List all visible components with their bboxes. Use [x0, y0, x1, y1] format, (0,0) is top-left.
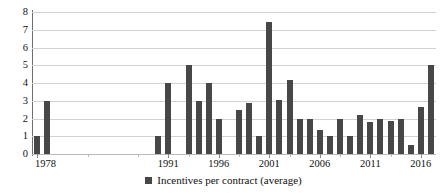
x-tick-label-2006: 2006 [309, 158, 330, 169]
x-tick-mark-minor [239, 154, 240, 157]
bar [388, 121, 394, 154]
bar [236, 110, 242, 154]
bar [287, 80, 293, 154]
bar [186, 65, 192, 154]
x-tick-label-2011: 2011 [360, 158, 381, 169]
bar [408, 145, 414, 154]
x-tick-mark-minor [189, 154, 190, 157]
bar [165, 83, 171, 154]
bar [155, 136, 161, 154]
chart-legend: Incentives per contract (average) [0, 174, 447, 186]
x-tick-label-1991: 1991 [158, 158, 179, 169]
bar [266, 22, 272, 154]
y-tick-label-5: 5 [2, 60, 28, 71]
y-tick-label-7: 7 [2, 25, 28, 36]
y-tick-label-4: 4 [2, 78, 28, 89]
bar [377, 119, 383, 155]
bar [367, 122, 373, 154]
y-axis-labels: 012345678 [0, 0, 28, 194]
x-tick-label-2001: 2001 [259, 158, 280, 169]
x-axis-ticks: 1978199119962001200620112016 [32, 154, 436, 174]
x-tick-mark-minor [290, 154, 291, 157]
bar [246, 103, 252, 154]
x-tick-label-2016: 2016 [410, 158, 431, 169]
bar [428, 65, 434, 154]
bar-series [32, 12, 436, 154]
bar [34, 136, 40, 154]
bar-chart: 012345678 1978199119962001200620112016 I… [0, 0, 447, 194]
bar [317, 130, 323, 154]
y-tick-label-6: 6 [2, 43, 28, 54]
y-tick-label-0: 0 [2, 149, 28, 160]
bar [327, 136, 333, 154]
bar [256, 136, 262, 154]
legend-square-marker-icon [145, 177, 152, 184]
bar [216, 119, 222, 155]
x-tick-mark-minor [138, 154, 139, 157]
bar [276, 100, 282, 154]
bar [337, 119, 343, 155]
y-tick-label-2: 2 [2, 114, 28, 125]
y-tick-label-1: 1 [2, 131, 28, 142]
y-tick-label-3: 3 [2, 96, 28, 107]
bar [297, 119, 303, 155]
bar [347, 136, 353, 154]
x-tick-mark-minor [340, 154, 341, 157]
x-tick-mark-minor [391, 154, 392, 157]
legend-label: Incentives per contract (average) [157, 174, 301, 186]
bar [418, 107, 424, 154]
bar [206, 83, 212, 154]
plot-area [32, 12, 436, 154]
x-tick-mark-minor [88, 154, 89, 157]
y-tick-label-8: 8 [2, 7, 28, 18]
bar [44, 101, 50, 154]
x-tick-label-1996: 1996 [208, 158, 229, 169]
bar [357, 115, 363, 154]
bar [196, 101, 202, 154]
x-tick-label-1978: 1978 [35, 158, 56, 169]
bar [307, 119, 313, 155]
bar [398, 119, 404, 155]
